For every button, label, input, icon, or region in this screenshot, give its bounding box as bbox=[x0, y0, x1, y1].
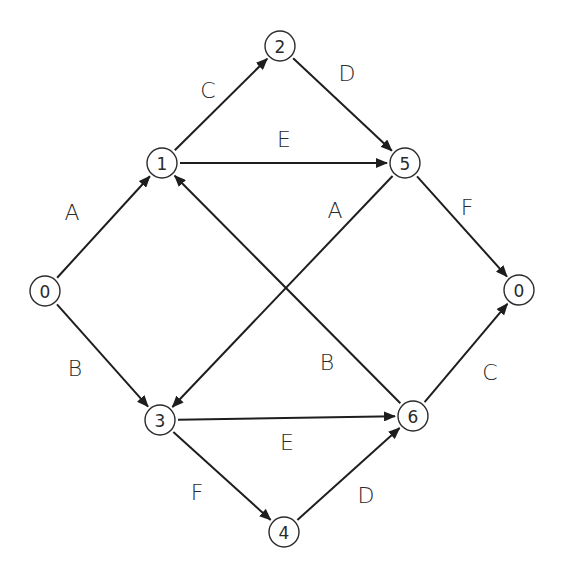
edge-n4-n6 bbox=[297, 428, 399, 520]
arrow-line bbox=[57, 176, 150, 277]
node-n2: 2 bbox=[265, 31, 295, 61]
node-label: 2 bbox=[275, 37, 286, 57]
edge-n5-n0R bbox=[417, 176, 507, 276]
edge-label: B bbox=[320, 350, 334, 375]
node-label: 4 bbox=[279, 523, 290, 543]
node-n6: 6 bbox=[398, 401, 428, 431]
edge-n3-n4 bbox=[173, 432, 270, 520]
node-label: 3 bbox=[155, 411, 166, 431]
node-n1: 1 bbox=[147, 148, 177, 178]
edge-label: C bbox=[200, 78, 215, 103]
edge-n5-n3 bbox=[172, 176, 392, 407]
edge-label: A bbox=[327, 198, 342, 223]
arrow-line bbox=[178, 416, 395, 419]
node-n3: 3 bbox=[145, 405, 175, 435]
arrow-line bbox=[297, 428, 399, 520]
node-label: 0 bbox=[514, 281, 525, 301]
arrow-line bbox=[417, 176, 507, 276]
nodes-layer: 01250364 bbox=[30, 31, 534, 547]
edge-label: E bbox=[277, 127, 291, 152]
node-n0L: 0 bbox=[30, 276, 60, 306]
edge-label: F bbox=[461, 195, 474, 220]
edge-n1-n2 bbox=[175, 59, 267, 151]
arrow-line bbox=[173, 432, 270, 520]
network-diagram: ACDEFABBEFDC 01250364 bbox=[0, 0, 561, 577]
node-label: 5 bbox=[400, 154, 411, 174]
edge-label: D bbox=[358, 483, 375, 508]
arrow-line bbox=[172, 176, 392, 407]
edge-n6-n0R bbox=[425, 304, 508, 402]
node-label: 6 bbox=[408, 407, 419, 427]
arrow-line bbox=[175, 59, 267, 151]
edge-label: F bbox=[191, 480, 204, 505]
edge-n3-n6 bbox=[178, 416, 395, 419]
edge-label: E bbox=[280, 430, 294, 455]
node-label: 1 bbox=[157, 154, 168, 174]
node-n4: 4 bbox=[269, 517, 299, 547]
edge-label: A bbox=[64, 200, 79, 225]
node-n0R: 0 bbox=[504, 275, 534, 305]
edge-n0L-n1 bbox=[57, 176, 150, 277]
arrow-line bbox=[425, 304, 508, 402]
node-n5: 5 bbox=[390, 148, 420, 178]
edge-label: D bbox=[339, 61, 356, 86]
edge-label: B bbox=[68, 356, 82, 381]
edge-label: C bbox=[482, 360, 497, 385]
node-label: 0 bbox=[40, 282, 51, 302]
